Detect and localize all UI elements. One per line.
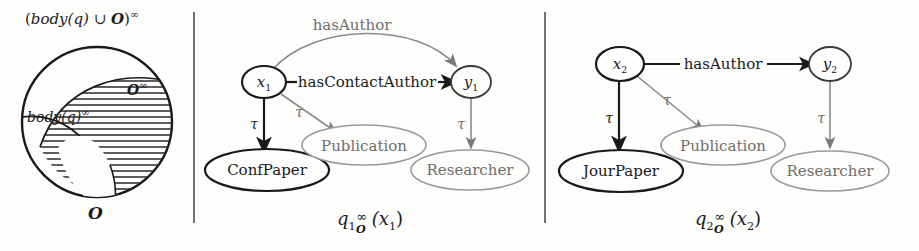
venn-ontology-symbol: O [127, 82, 139, 98]
q1-edge-label-tau-confpaper: τ [250, 117, 258, 131]
panel-query-graph-q1: hasAuthor hasContactAuthor x1 y1 ConfPap… [194, 0, 545, 251]
venn-outer-infinity: ∞ [130, 8, 139, 21]
q1-x1-sub: 1 [265, 82, 271, 93]
venn-outer-ontology: O [111, 10, 124, 28]
q1-caption: q1∞O(x1) [337, 210, 403, 228]
q2-y2-sub: 2 [831, 64, 837, 75]
panel-divider-left [193, 12, 195, 223]
q1-node-label-confpaper: ConfPaper [227, 163, 307, 178]
venn-label-ontology: O [88, 205, 103, 222]
venn-ontology-infinity: ∞ [139, 80, 147, 91]
venn-outer-q: (q) [68, 10, 89, 28]
q1-edge-tau-publication [281, 94, 336, 132]
q1-caption-q: q [337, 208, 349, 229]
q1-edge-label-hascontactauthor: hasContactAuthor [298, 75, 436, 90]
venn-body-word: body [27, 109, 61, 125]
venn-label-body-saturation: body(q)∞ [27, 110, 90, 124]
panel-query-graph-q2: hasAuthor x2 y2 JourPaper Publication Re… [545, 0, 919, 251]
q2-node-label-publication: Publication [680, 139, 766, 154]
q2-edge-label-tau-researcher: τ [817, 111, 825, 125]
q1-edge-hasauthor-path [272, 33, 456, 70]
q2-x2-sub: 2 [621, 64, 627, 75]
q1-node-label-publication: Publication [321, 139, 407, 154]
q1-y1-sub: 1 [472, 82, 478, 93]
q2-edge-label-tau-jourpaper: τ [605, 111, 613, 125]
region-ontology-saturation-fill [40, 78, 192, 201]
q2-caption-arg-close: ) [754, 208, 761, 229]
venn-label-outer-set: (body(q) ∪ O)∞ [25, 12, 139, 27]
panel-venn-diagram: (body(q) ∪ O)∞ body(q)∞ O∞ O [0, 0, 194, 251]
q2-caption: q2∞O(x2) [695, 210, 761, 228]
q1-edge-label-tau-researcher: τ [457, 117, 465, 131]
q2-caption-index: 2 [706, 220, 713, 233]
q2-node-label-researcher: Researcher [787, 164, 874, 179]
venn-label-ontology-saturation: O∞ [127, 83, 148, 97]
figure-container: (body(q) ∪ O)∞ body(q)∞ O∞ O [0, 0, 919, 251]
panel-divider-right [544, 12, 546, 223]
venn-body-q: (q) [61, 109, 81, 125]
q1-caption-arg-close: ) [396, 208, 403, 229]
q1-node-label-y1: y1 [464, 75, 478, 90]
q1-node-label-researcher: Researcher [427, 163, 514, 178]
q2-caption-q: q [695, 208, 707, 229]
q2-caption-arg-open: (x [730, 208, 747, 229]
q2-node-label-jourpaper: JourPaper [583, 164, 659, 179]
venn-outer-union: ∪ [89, 10, 111, 28]
q1-node-label-x1: x1 [257, 75, 271, 90]
q1-caption-arg-open: (x [372, 208, 389, 229]
venn-outer-body: body [31, 10, 68, 28]
q2-edge-label-tau-publication: τ [663, 93, 671, 107]
q1-edge-label-hasauthor: hasAuthor [313, 18, 392, 33]
q2-node-label-y2: y2 [823, 57, 837, 72]
q2-node-label-x2: x2 [613, 57, 627, 72]
venn-body-infinity: ∞ [81, 107, 89, 118]
q1-caption-index: 1 [348, 220, 355, 233]
q2-edge-label-hasauthor: hasAuthor [684, 57, 763, 72]
q1-edge-label-tau-publication: τ [295, 105, 303, 119]
